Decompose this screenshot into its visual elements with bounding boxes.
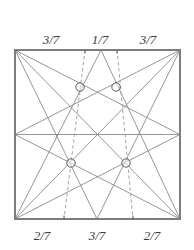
marker-upper-right-circle [112,83,120,91]
marker-upper-left [76,83,84,91]
solid-lines-group [15,50,180,219]
marker-lower-left-circle [67,159,75,167]
marker-upper-right [112,83,120,91]
marker-lower-left [67,159,75,167]
marker-lower-right [122,159,130,167]
top-labels-group: 3/71/73/7 [42,32,157,47]
marker-upper-left-circle [76,83,84,91]
geometry-figure-svg: 3/71/73/7 2/73/72/7 [0,0,194,250]
top-fraction-label-2: 3/7 [139,32,157,47]
bottom-fraction-label-0: 2/7 [34,228,51,243]
geometry-figure-container: 3/71/73/7 2/73/72/7 [0,0,194,250]
bottom-labels-group: 2/73/72/7 [34,228,161,243]
intersection-markers-group [67,83,130,167]
bottom-fraction-label-1: 3/7 [88,228,106,243]
bottom-fraction-label-2: 2/7 [144,228,161,243]
top-fraction-label-1: 1/7 [92,32,109,47]
top-fraction-label-0: 3/7 [42,32,60,47]
marker-lower-right-circle [122,159,130,167]
